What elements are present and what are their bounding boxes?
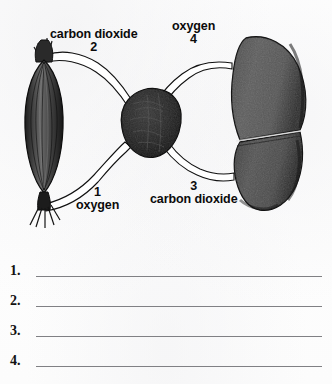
answer-row-4: 4. [10, 349, 322, 369]
label-1-text: oxygen [76, 199, 119, 212]
answer-number-3: 3. [10, 324, 36, 339]
answer-row-2: 2. [10, 289, 322, 309]
vessel-3-carbon-dioxide [163, 143, 234, 181]
answer-row-1: 1. [10, 259, 322, 279]
muscle-icon [25, 38, 63, 228]
answer-blank-4[interactable] [36, 366, 322, 367]
label-3-carbon-dioxide: 3 carbon dioxide [150, 180, 238, 206]
lung-icon [232, 37, 306, 210]
label-1-oxygen: 1 oxygen [76, 186, 119, 212]
label-3-text: carbon dioxide [150, 193, 238, 206]
answer-blank-1[interactable] [36, 276, 322, 277]
answer-lines-section: 1. 2. 3. 4. [0, 245, 332, 384]
label-2-carbon-dioxide: carbon dioxide 2 [50, 28, 138, 54]
answer-number-1: 1. [10, 264, 36, 279]
answer-blank-3[interactable] [36, 336, 322, 337]
gas-exchange-diagram: carbon dioxide 2 oxygen 4 1 oxygen 3 car… [0, 0, 332, 240]
answer-row-3: 3. [10, 319, 322, 339]
answer-number-4: 4. [10, 354, 36, 369]
answer-blank-2[interactable] [36, 306, 322, 307]
label-4-number: 4 [172, 33, 215, 46]
label-2-number: 2 [50, 41, 138, 54]
worksheet-page: carbon dioxide 2 oxygen 4 1 oxygen 3 car… [0, 0, 332, 384]
answer-number-2: 2. [10, 294, 36, 309]
label-4-oxygen: oxygen 4 [172, 20, 215, 46]
